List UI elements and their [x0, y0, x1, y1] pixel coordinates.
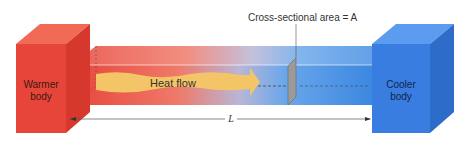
area-label: Cross-sectional area = A: [248, 12, 408, 24]
length-dimension: [70, 117, 371, 121]
warmer-line1: Warmer: [16, 79, 66, 91]
cross-section-plate: [288, 58, 296, 105]
warmer-body-label: Warmer body: [16, 79, 66, 103]
length-label: L: [224, 113, 238, 125]
cooler-line2: body: [372, 91, 430, 103]
heat-flow-label: Heat flow: [150, 77, 220, 89]
warmer-line2: body: [16, 91, 66, 103]
cooler-body-label: Cooler body: [372, 79, 430, 103]
cooler-line1: Cooler: [372, 79, 430, 91]
